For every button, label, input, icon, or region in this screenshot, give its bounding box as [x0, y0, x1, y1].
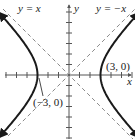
label-y-eq-neg-x: y = −x: [95, 2, 126, 14]
label-vertex-right: (3, 0): [106, 60, 130, 73]
label-vertex-left: (−3, 0): [33, 96, 63, 109]
asymptote-y-eq-neg-x: [3, 9, 133, 139]
label-y-axis: y: [73, 2, 79, 14]
hyperbola-chart: y = x y = −x y x (3, 0) (−3, 0): [0, 0, 135, 139]
label-x-axis: x: [126, 75, 132, 87]
leader-line-left-vertex: [39, 78, 43, 96]
label-y-eq-x: y = x: [17, 2, 41, 14]
